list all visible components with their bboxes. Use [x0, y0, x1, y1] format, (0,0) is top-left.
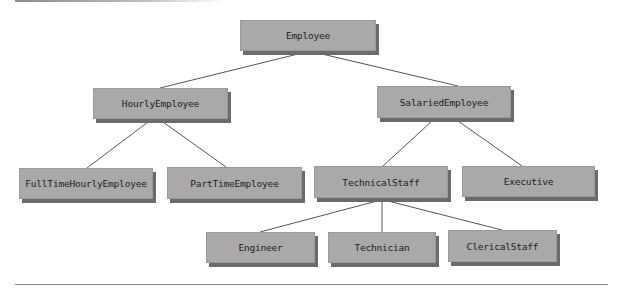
edge-technical-clerical: [388, 201, 502, 230]
node-clerical: ClericalStaff: [448, 230, 557, 262]
edge-hourly-fulltime: [87, 122, 148, 168]
node-parttime: PartTimeEmployee: [167, 167, 302, 199]
node-label: ClericalStaff: [467, 241, 539, 252]
node-employee: Employee: [240, 20, 376, 51]
node-fulltime: FullTimeHourlyEmployee: [19, 168, 153, 199]
node-label: HourlyEmployee: [122, 98, 199, 109]
node-label: SalariedEmployee: [400, 97, 488, 108]
node-technical: TechnicalStaff: [314, 166, 448, 198]
node-label: Employee: [286, 30, 330, 41]
node-engineer: Engineer: [206, 232, 315, 263]
edge-salaried-technical: [383, 121, 432, 166]
node-label: Executive: [504, 176, 554, 187]
edge-hourly-parttime: [163, 122, 226, 167]
edge-salaried-executive: [458, 121, 522, 166]
edge-technical-engineer: [260, 201, 377, 232]
node-label: Technician: [354, 242, 409, 253]
edge-employee-salaried: [322, 54, 458, 86]
node-executive: Executive: [462, 166, 595, 197]
node-label: TechnicalStaff: [342, 177, 419, 188]
node-hourly: HourlyEmployee: [93, 88, 228, 119]
node-label: FullTimeHourlyEmployee: [25, 178, 146, 189]
node-technician: Technician: [328, 232, 436, 263]
node-salaried: SalariedEmployee: [377, 86, 511, 118]
node-label: PartTimeEmployee: [190, 178, 278, 189]
edge-employee-hourly: [160, 54, 298, 88]
bottom-rule: [15, 284, 608, 285]
node-label: Engineer: [238, 242, 282, 253]
